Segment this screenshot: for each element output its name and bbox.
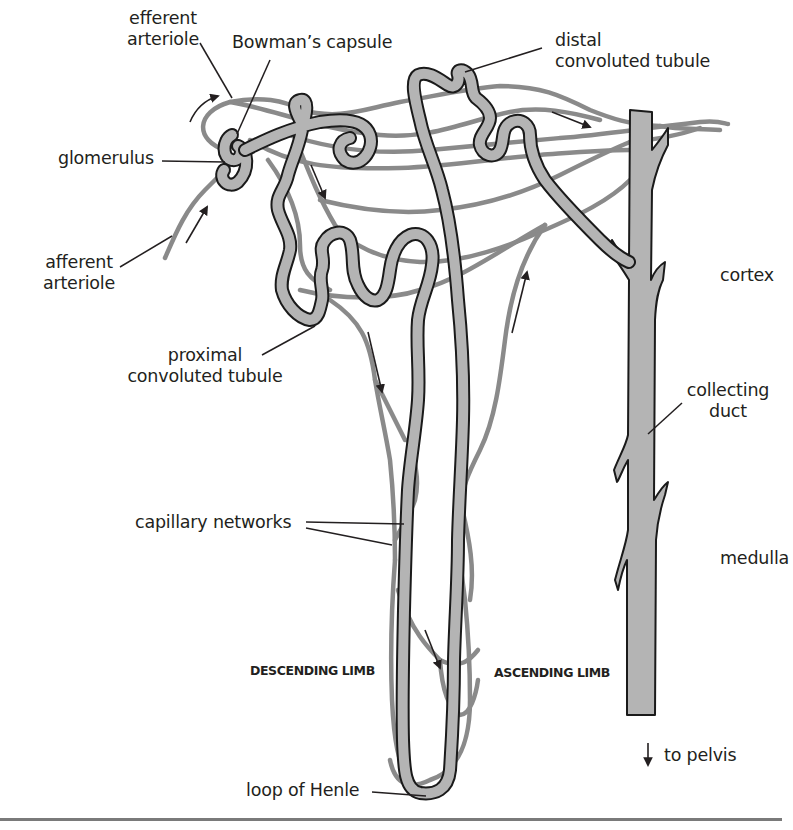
label-line: proximal — [112, 345, 298, 366]
label-cortex: cortex — [720, 265, 774, 286]
label-capillary-networks: capillary networks — [135, 512, 291, 533]
label-line: arteriole — [118, 29, 208, 50]
label-line: duct — [684, 401, 772, 422]
label-line: collecting — [684, 380, 772, 401]
label-line: convoluted tubule — [555, 51, 710, 72]
label-line: arteriole — [38, 273, 120, 294]
label-bowmans-capsule: Bowman’s capsule — [232, 32, 392, 53]
label-proximal-convoluted-tubule: proximal convoluted tubule — [112, 345, 298, 387]
label-loop-of-henle: loop of Henle — [246, 780, 359, 801]
label-distal-convoluted-tubule: distal convoluted tubule — [555, 30, 710, 72]
nephron-tubule — [222, 70, 629, 793]
label-line: distal — [555, 30, 710, 51]
bottom-rule — [0, 818, 782, 821]
label-glomerulus: glomerulus — [58, 148, 154, 169]
label-line: convoluted tubule — [112, 366, 298, 387]
label-line: efferent — [118, 8, 208, 29]
label-to-pelvis: to pelvis — [664, 745, 736, 766]
nephron-diagram — [0, 0, 793, 830]
label-medulla: medulla — [720, 548, 789, 569]
label-descending-limb: DESCENDING LIMB — [250, 660, 375, 681]
collecting-duct — [608, 110, 668, 715]
label-collecting-duct: collecting duct — [684, 380, 772, 422]
label-efferent-arteriole: efferent arteriole — [118, 8, 208, 50]
label-ascending-limb: ASCENDING LIMB — [494, 662, 610, 683]
label-line: afferent — [38, 252, 120, 273]
afferent-arteriole-vessel — [165, 170, 225, 258]
label-afferent-arteriole: afferent arteriole — [38, 252, 120, 294]
